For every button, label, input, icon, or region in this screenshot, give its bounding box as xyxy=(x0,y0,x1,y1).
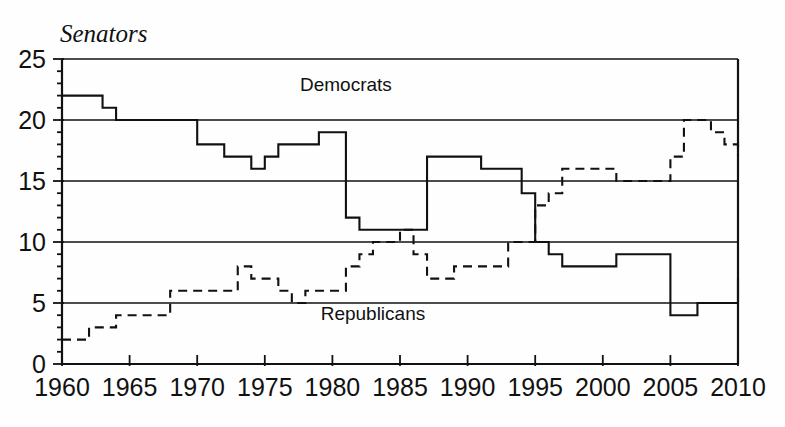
x-tick-label-1965: 1965 xyxy=(102,373,158,401)
senators-line-chart: 0510152025 19601965197019751980198519901… xyxy=(0,0,785,427)
x-tick-label-1975: 1975 xyxy=(237,373,293,401)
x-tick-label-1995: 1995 xyxy=(507,373,563,401)
y-tick-label-20: 20 xyxy=(18,106,46,134)
annotation-label-democrats: Democrats xyxy=(300,74,392,95)
x-tick-label-1970: 1970 xyxy=(169,373,225,401)
chart-page: 0510152025 19601965197019751980198519901… xyxy=(0,0,785,427)
series-annotations-group: DemocratsRepublicans xyxy=(294,74,435,327)
y-axis-title: Senators xyxy=(60,20,148,47)
x-tick-label-1985: 1985 xyxy=(372,373,428,401)
y-tick-label-5: 5 xyxy=(32,289,46,317)
gridlines-group xyxy=(62,59,738,303)
x-tick-label-1990: 1990 xyxy=(440,373,496,401)
x-tick-label-2010: 2010 xyxy=(710,373,766,401)
x-tick-label-1980: 1980 xyxy=(305,373,361,401)
x-tick-labels-group: 1960196519701975198019851990199520002005… xyxy=(34,373,766,401)
annotation-label-republicans: Republicans xyxy=(321,303,426,324)
x-tick-label-1960: 1960 xyxy=(34,373,90,401)
y-tick-label-25: 25 xyxy=(18,45,46,73)
x-tick-label-2000: 2000 xyxy=(575,373,631,401)
x-tick-label-2005: 2005 xyxy=(643,373,699,401)
y-tick-labels-group: 0510152025 xyxy=(18,45,46,378)
series-line-democrats xyxy=(62,96,738,316)
y-tick-label-10: 10 xyxy=(18,228,46,256)
y-tick-label-15: 15 xyxy=(18,167,46,195)
